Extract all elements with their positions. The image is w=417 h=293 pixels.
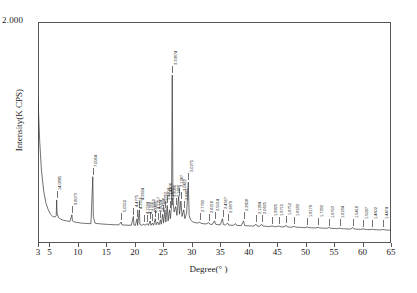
peak-leader-tick: [172, 198, 173, 205]
peak-label: 2.6216: [210, 201, 214, 213]
peak-leader-tick: [93, 168, 94, 175]
peak-leader-tick: [215, 212, 216, 219]
peak-label: 2.1284: [258, 202, 262, 214]
peak-leader-tick: [200, 213, 201, 220]
y-axis-max-label: 2.000: [2, 15, 23, 25]
peak-label: 1.5097: [365, 207, 369, 219]
peak-label: 7.0064: [94, 155, 98, 167]
peak-leader-tick: [179, 188, 180, 195]
peak-leader-tick: [256, 215, 257, 222]
peak-label: 1.9925: [274, 204, 278, 216]
peak-leader-tick: [147, 215, 148, 222]
x-axis-ticks: 35101520253035404550556065: [38, 243, 391, 259]
peak-label: 1.6184: [341, 206, 345, 218]
xrd-chart-page: 2.000 Intensity(K CPS) 14.08859.80737.00…: [0, 0, 417, 293]
peak-leader-tick: [340, 219, 341, 226]
peak-leader-tick: [165, 201, 166, 208]
peak-label: 4.2624: [141, 188, 145, 200]
peak-label: 1.6703: [331, 206, 335, 218]
diffraction-trace: 14.08859.80737.00645.05504.47754.31554.2…: [38, 22, 391, 243]
peak-leader-tick: [188, 173, 189, 180]
peak-leader-tick: [262, 215, 263, 222]
peak-label: 3.33874: [174, 51, 178, 65]
peak-label: 5.0550: [123, 200, 127, 212]
peak-leader-tick: [176, 198, 177, 205]
peak-label: 1.8182: [296, 204, 300, 216]
peak-leader-tick: [272, 217, 273, 224]
x-tick-label: 10: [73, 247, 82, 257]
peak-leader-tick: [307, 218, 308, 225]
peak-leader-tick: [139, 201, 140, 208]
peak-leader-tick: [160, 211, 161, 218]
peak-leader-tick: [329, 219, 330, 226]
peak-label: 2.3879: [229, 201, 233, 213]
peak-leader-tick: [155, 210, 156, 217]
x-tick-label: 5: [47, 247, 52, 257]
peak-label: 1.9715: [280, 204, 284, 216]
x-axis-title: Degree(° ): [0, 264, 417, 274]
peak-label: 14.0885: [58, 176, 62, 190]
peak-label: 1.8179: [309, 205, 313, 217]
peak-leader-tick: [294, 217, 295, 224]
x-tick-label: 35: [216, 247, 225, 257]
peak-leader-tick: [363, 220, 364, 227]
peak-label: 9.8073: [74, 193, 78, 205]
peak-label: 2.8861: [185, 188, 189, 200]
peak-leader-tick: [133, 208, 134, 215]
peak-leader-tick: [152, 214, 153, 221]
peak-label: 1.8752: [288, 203, 292, 215]
peak-label: 1.4474: [385, 207, 389, 219]
peak-leader-tick: [172, 66, 173, 73]
peak-label: 2.7792: [201, 200, 205, 212]
peak-label: 2.2808: [245, 199, 249, 211]
peak-label: 1.5418: [355, 206, 359, 218]
peak-label: 2.5014: [216, 199, 220, 211]
peak-leader-tick: [72, 206, 73, 213]
x-tick-label: 40: [244, 247, 253, 257]
x-tick-label: 30: [187, 247, 196, 257]
x-tick-label: 65: [387, 247, 396, 257]
peak-label: 1.4602: [374, 207, 378, 219]
x-tick-label: 50: [301, 247, 310, 257]
x-tick-label: 15: [102, 247, 111, 257]
peak-leader-tick: [158, 213, 159, 220]
peak-leader-tick: [137, 210, 138, 217]
peak-leader-tick: [144, 215, 145, 222]
peak-leader-tick: [170, 201, 171, 208]
y-axis-title: Intensity(K CPS): [14, 70, 24, 170]
peak-leader-tick: [279, 217, 280, 224]
x-tick-label: 60: [358, 247, 367, 257]
peak-leader-tick: [121, 213, 122, 220]
x-tick-label: 20: [130, 247, 139, 257]
peak-leader-tick: [244, 212, 245, 219]
x-tick-label: 25: [159, 247, 168, 257]
x-tick-label: 55: [330, 247, 339, 257]
peak-leader-tick: [286, 216, 287, 223]
peak-leader-tick: [209, 214, 210, 221]
peak-leader-tick: [223, 210, 224, 217]
peak-leader-tick: [228, 214, 229, 221]
peak-leader-tick: [184, 201, 185, 208]
peak-leader-tick: [57, 191, 58, 198]
peak-leader-tick: [150, 212, 151, 219]
peak-leader-tick: [353, 219, 354, 226]
peak-leader-tick: [181, 192, 182, 199]
peak-leader-tick: [383, 220, 384, 227]
peak-leader-tick: [318, 218, 319, 225]
peak-leader-tick: [372, 220, 373, 227]
peak-label: 3.0275: [190, 160, 194, 172]
peak-leader-tick: [167, 196, 168, 203]
peak-label: 2.0625: [263, 202, 267, 214]
peak-leader-tick: [163, 205, 164, 212]
x-tick-label: 3: [36, 247, 41, 257]
x-tick-label: 45: [273, 247, 282, 257]
peak-label: 1.7292: [320, 205, 324, 217]
